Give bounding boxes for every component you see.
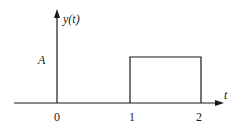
pulse-signal (130, 57, 201, 103)
x-axis-label: t (224, 89, 227, 101)
x-tick-0: 0 (54, 111, 60, 123)
signal-plot (0, 0, 239, 126)
x-tick-2: 2 (196, 111, 202, 123)
x-tick-1: 1 (129, 111, 135, 123)
y-axis-label: y(t) (63, 13, 80, 25)
y-axis-arrow-icon (54, 9, 60, 18)
x-axis-arrow-icon (215, 100, 224, 106)
amplitude-label: A (38, 54, 45, 66)
